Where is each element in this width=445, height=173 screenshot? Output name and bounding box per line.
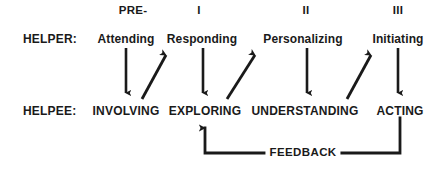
feedback-label: FEEDBACK [265,146,340,158]
diagonal-arrow-exploring-to-personalizing [227,55,255,99]
helping-skills-diagram: PRE- I II III HELPER: HELPEE: Attending … [0,0,445,173]
diagonal-arrow-involving-to-responding [142,55,166,99]
feedback-loop-left-segment [205,128,268,153]
arrow-layer [0,0,445,173]
feedback-loop-right-segment [340,118,400,153]
diagonal-arrow-understanding-to-initiating [347,55,371,99]
